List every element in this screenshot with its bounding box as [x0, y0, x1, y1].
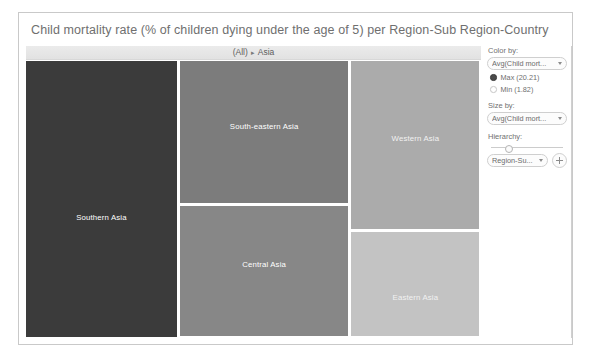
chevron-down-icon: [558, 62, 562, 65]
visualization-card: Child mortality rate (% of children dyin…: [18, 12, 573, 345]
legend-max-label: Max (20.21): [501, 73, 540, 82]
treemap-tile[interactable]: Western Asia: [351, 61, 479, 229]
legend-min-label: Min (1.82): [501, 85, 534, 94]
size-by-dropdown[interactable]: Avg(Child mort...: [487, 112, 567, 125]
hierarchy-depth-slider[interactable]: [487, 143, 567, 152]
panel-divider: [571, 46, 572, 338]
chart-controls-panel: Color by: Avg(Child mort... Max (20.21) …: [487, 46, 567, 338]
breadcrumb-item-current[interactable]: Asia: [258, 47, 275, 57]
treemap-tile[interactable]: Central Asia: [180, 206, 348, 337]
hierarchy-value: Region-Su...: [492, 156, 536, 165]
slider-track: [491, 147, 563, 148]
color-by-group: Color by: Avg(Child mort... Max (20.21) …: [487, 46, 567, 94]
color-by-dropdown[interactable]: Avg(Child mort...: [487, 57, 567, 70]
treemap-tile[interactable]: South-eastern Asia: [180, 61, 348, 203]
hierarchy-group: Hierarchy: Region-Su...: [487, 132, 567, 168]
treemap-tile-label: South-eastern Asia: [180, 122, 348, 131]
treemap-tile[interactable]: Southern Asia: [26, 61, 177, 337]
size-by-label: Size by:: [488, 101, 567, 110]
hierarchy-dropdown[interactable]: Region-Su...: [487, 154, 548, 167]
chevron-down-icon: [539, 159, 543, 162]
color-by-value: Avg(Child mort...: [492, 59, 555, 68]
breadcrumb-separator-icon: ▸: [251, 49, 255, 56]
legend-max-swatch-icon: [490, 74, 497, 81]
treemap-tile-label: Western Asia: [351, 134, 479, 143]
treemap: Southern AsiaSouth-eastern AsiaCentral A…: [26, 61, 481, 338]
chevron-down-icon: [558, 117, 562, 120]
breadcrumb-item-all[interactable]: (All): [233, 47, 248, 57]
size-by-value: Avg(Child mort...: [492, 114, 555, 123]
hierarchy-label: Hierarchy:: [488, 132, 567, 141]
breadcrumb: (All)▸Asia: [26, 47, 481, 57]
treemap-tile-label: Southern Asia: [26, 213, 177, 222]
color-by-label: Color by:: [488, 46, 567, 55]
page-title: Child mortality rate (% of children dyin…: [31, 23, 549, 37]
size-by-group: Size by: Avg(Child mort...: [487, 101, 567, 125]
add-hierarchy-level-button[interactable]: [552, 153, 567, 168]
treemap-tile[interactable]: Eastern Asia: [351, 232, 479, 337]
slider-handle[interactable]: [505, 145, 513, 153]
treemap-chart-area: (All)▸Asia Southern AsiaSouth-eastern As…: [26, 46, 481, 338]
legend-min-row[interactable]: Min (1.82): [490, 85, 567, 94]
hierarchy-row: Region-Su...: [487, 153, 567, 168]
legend-max-row[interactable]: Max (20.21): [490, 73, 567, 82]
legend-min-swatch-icon: [490, 86, 497, 93]
treemap-tile-label: Eastern Asia: [351, 293, 479, 302]
breadcrumb-bar[interactable]: (All)▸Asia: [26, 46, 481, 60]
treemap-tile-label: Central Asia: [180, 260, 348, 269]
